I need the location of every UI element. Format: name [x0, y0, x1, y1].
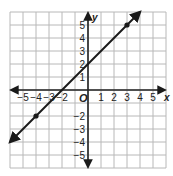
- x-tick-label: −4: [30, 92, 42, 103]
- origin-label: O: [79, 92, 88, 104]
- axes: [11, 13, 165, 167]
- data-point: [124, 22, 129, 27]
- coordinate-plane: −5−4−3−21234554321−2−3−4−5 x y O: [0, 0, 173, 176]
- x-tick-label: 3: [124, 92, 130, 103]
- y-tick-label: 3: [79, 46, 85, 57]
- y-tick-label: −5: [74, 150, 86, 161]
- y-axis-label: y: [91, 12, 98, 23]
- data-point: [33, 113, 38, 118]
- x-tick-label: −5: [17, 92, 29, 103]
- y-tick-label: −2: [74, 111, 86, 122]
- x-tick-label: 4: [137, 92, 143, 103]
- y-tick-label: 4: [79, 33, 85, 44]
- x-tick-label: 1: [98, 92, 104, 103]
- x-axis-label: x: [163, 92, 170, 103]
- y-tick-label: −4: [74, 137, 86, 148]
- y-tick-label: 5: [79, 20, 85, 31]
- x-tick-label: 5: [150, 92, 156, 103]
- y-tick-label: −3: [74, 124, 86, 135]
- y-tick-label: 1: [79, 72, 85, 83]
- x-tick-label: 2: [111, 92, 117, 103]
